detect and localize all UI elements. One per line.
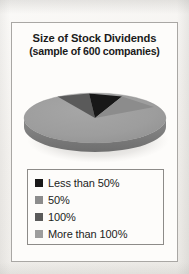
chart-legend: Less than 50% 50% 100% More than 100% xyxy=(27,169,164,245)
chart-title: Size of Stock Dividends (sample of 600 c… xyxy=(12,32,177,58)
chart-title-line-1: Size of Stock Dividends xyxy=(12,32,177,45)
chart-title-subtitle: (sample of 600 companies) xyxy=(12,45,177,58)
pie-chart xyxy=(12,61,179,166)
legend-swatch-more-than-100 xyxy=(35,230,43,238)
legend-label-100: 100% xyxy=(48,211,76,223)
figure-frame: Size of Stock Dividends (sample of 600 c… xyxy=(11,22,178,262)
legend-item-more-than-100: More than 100% xyxy=(35,226,163,242)
legend-swatch-50 xyxy=(35,196,43,204)
legend-swatch-less-than-50 xyxy=(35,179,43,187)
legend-label-50: 50% xyxy=(48,194,70,206)
pie-chart-svg xyxy=(12,61,179,166)
legend-label-more-than-100: More than 100% xyxy=(48,228,127,240)
legend-label-less-than-50: Less than 50% xyxy=(48,177,119,189)
legend-swatch-100 xyxy=(35,213,43,221)
legend-item-50: 50% xyxy=(35,192,163,208)
legend-item-less-than-50: Less than 50% xyxy=(35,175,163,191)
legend-item-100: 100% xyxy=(35,209,163,225)
